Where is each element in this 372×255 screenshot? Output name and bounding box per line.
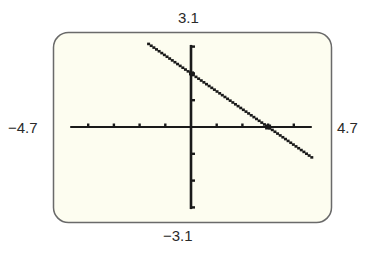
- calculator-graph-screen: [0, 0, 372, 255]
